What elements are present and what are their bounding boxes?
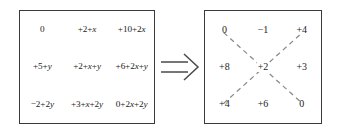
expression-cell-r1c1: +2+x+y (65, 48, 110, 85)
expression-cell-text: −2+2y (31, 100, 54, 109)
expression-cell-text: +5+y (33, 62, 52, 71)
expression-cell-text: 0+2x+2y (116, 100, 148, 109)
numeric-cell-text: +6 (258, 99, 268, 109)
expression-cell-r2c2: 0+2x+2y (109, 86, 154, 123)
expression-cell-r1c2: +6+2x+y (109, 48, 154, 85)
numeric-cell-r0c2: +4 (282, 11, 321, 48)
expression-cell-text: +6+2x+y (116, 62, 148, 71)
expression-cell-r0c2: +10+2x (109, 11, 154, 48)
numeric-cell-text: +4 (219, 99, 229, 109)
expression-cell-text: 0 (40, 25, 45, 34)
numeric-cell-r1c2: +3 (282, 48, 321, 85)
numeric-cell-r2c1: +6 (244, 86, 283, 123)
numeric-cell-r2c2: 0 (282, 86, 321, 123)
expression-cell-text: +3+x+2y (71, 100, 103, 109)
expression-cell-r2c1: +3+x+2y (65, 86, 110, 123)
numeric-cell-text: 0 (299, 99, 304, 109)
expression-cell-r1c0: +5+y (20, 48, 65, 85)
expression-grid-table: 0 +2+x +10+2x +5+y +2+x+y +6+2x+y −2+2y … (20, 11, 154, 123)
numeric-grid-table: 0 −1 +4 +8 +2 +3 +4 +6 (205, 11, 321, 123)
numeric-cell-r0c1: −1 (244, 11, 283, 48)
expression-grid-box: 0 +2+x +10+2x +5+y +2+x+y +6+2x+y −2+2y … (19, 10, 155, 124)
expression-cell-r2c0: −2+2y (20, 86, 65, 123)
expression-cell-text: +10+2x (118, 25, 146, 34)
numeric-cell-text: +2 (257, 62, 268, 72)
expression-cell-text: +2+x (78, 25, 97, 34)
expression-cell-r0c1: +2+x (65, 11, 110, 48)
numeric-cell-text: 0 (222, 25, 227, 35)
implies-arrow-icon (160, 53, 202, 81)
numeric-cell-text: +3 (296, 62, 306, 72)
expression-cell-text: +2+x+y (73, 62, 101, 71)
numeric-grid-box: 0 −1 +4 +8 +2 +3 +4 +6 (204, 10, 322, 124)
numeric-cell-text: +8 (219, 62, 229, 72)
figure-root: 0 +2+x +10+2x +5+y +2+x+y +6+2x+y −2+2y … (0, 0, 339, 133)
numeric-cell-r1c0: +8 (205, 48, 244, 85)
numeric-cell-r2c0: +4 (205, 86, 244, 123)
numeric-cell-r0c0: 0 (205, 11, 244, 48)
numeric-cell-text: +4 (296, 25, 306, 35)
expression-cell-r0c0: 0 (20, 11, 65, 48)
numeric-cell-text: −1 (258, 25, 268, 35)
numeric-cell-r1c1: +2 (244, 48, 283, 85)
